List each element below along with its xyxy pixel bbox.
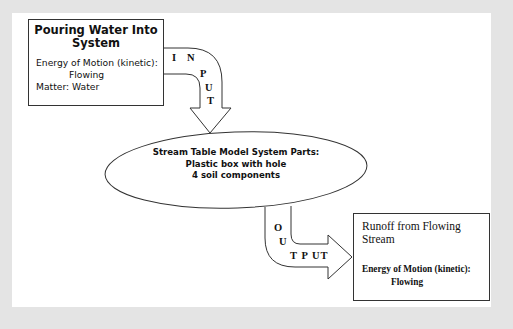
output-letter-o: O [274,223,282,234]
system-part-2: 4 soil components [140,170,332,182]
input-letter-t: T [207,96,214,107]
output-energy-label: Energy of Motion (kinetic): [362,263,489,276]
input-letter-i: I [172,53,176,64]
output-letter-u: U [279,237,287,248]
system-label: Stream Table Model System Parts: Plastic… [140,147,332,182]
output-letters-tput: T P UT [290,251,328,262]
input-box-title: Pouring Water Into System [33,24,159,50]
output-energy-value: Flowing [362,276,489,289]
system-part-1: Plastic box with hole [140,159,332,171]
input-box: Pouring Water Into System Energy of Moti… [28,19,164,106]
output-box-title: Runoff from Flowing Stream [362,220,489,246]
input-energy-value: Flowing [36,69,163,81]
input-matter: Matter: Water [36,81,163,93]
input-energy-label: Energy of Motion (kinetic): [36,57,163,69]
input-letter-u: U [205,83,213,94]
system-title: Stream Table Model System Parts: [140,147,332,159]
input-letter-n: N [187,53,195,64]
input-letter-p: P [200,69,206,80]
output-box: Runoff from Flowing Stream Energy of Mot… [353,213,490,301]
